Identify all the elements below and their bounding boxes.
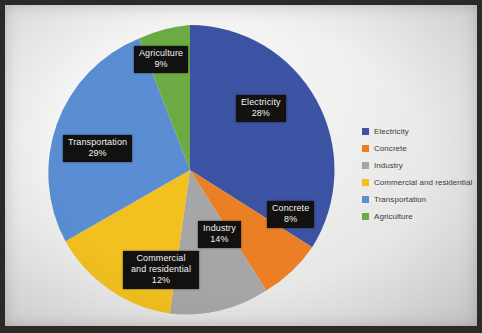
slice-label-transportation: Transportation 29%: [63, 135, 132, 162]
slice-label-concrete-percent: 8%: [272, 214, 309, 225]
legend-swatch-agriculture: [362, 213, 369, 220]
photo-paper-background: Electricity 28% Concrete 8% Industry 14%…: [5, 5, 477, 326]
legend-item-transportation[interactable]: Transportation: [362, 192, 480, 206]
legend-label-concrete: Concrete: [374, 144, 407, 153]
slice-label-industry: Industry 14%: [198, 221, 241, 248]
legend-label-electricity: Electricity: [374, 127, 409, 136]
slice-label-commercial-percent: 12%: [128, 275, 194, 286]
legend-swatch-concrete: [362, 145, 369, 152]
slice-label-agriculture-name: Agriculture: [139, 48, 183, 58]
slice-label-agriculture: Agriculture 9%: [134, 46, 188, 73]
legend-swatch-industry: [362, 162, 369, 169]
slice-label-transportation-percent: 29%: [68, 148, 127, 159]
legend-swatch-electricity: [362, 128, 369, 135]
slice-label-concrete-name: Concrete: [272, 203, 309, 213]
legend-swatch-transportation: [362, 196, 369, 203]
legend-label-commercial-and-residential: Commercial and residential: [374, 178, 472, 187]
legend-item-concrete[interactable]: Concrete: [362, 141, 480, 155]
legend-item-industry[interactable]: Industry: [362, 158, 480, 172]
slice-label-commercial-line2: and residential: [128, 264, 194, 275]
legend-item-agriculture[interactable]: Agriculture: [362, 209, 480, 223]
slice-label-industry-name: Industry: [203, 223, 236, 233]
slice-label-electricity-percent: 28%: [241, 108, 281, 119]
screenshot-root: Electricity 28% Concrete 8% Industry 14%…: [0, 0, 482, 333]
legend-item-electricity[interactable]: Electricity: [362, 124, 480, 138]
chart-legend: Electricity Concrete Industry Commercial…: [362, 124, 480, 226]
legend-item-commercial-and-residential[interactable]: Commercial and residential: [362, 175, 480, 189]
legend-label-transportation: Transportation: [374, 195, 426, 204]
slice-label-industry-percent: 14%: [203, 234, 236, 245]
slice-label-electricity: Electricity 28%: [236, 95, 286, 122]
legend-label-industry: Industry: [374, 161, 403, 170]
legend-label-agriculture: Agriculture: [374, 212, 413, 221]
slice-label-electricity-name: Electricity: [241, 97, 281, 107]
slice-label-commercial-and-residential: Commercial and residential 12%: [123, 251, 199, 289]
slice-label-transportation-name: Transportation: [68, 137, 127, 147]
slice-label-agriculture-percent: 9%: [139, 59, 183, 70]
slice-label-concrete: Concrete 8%: [267, 201, 314, 228]
legend-swatch-commercial-and-residential: [362, 179, 369, 186]
slice-label-commercial-line1: Commercial: [136, 253, 185, 263]
